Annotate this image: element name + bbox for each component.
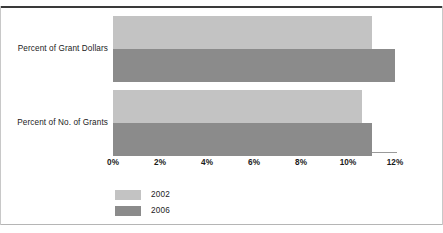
x-tick-label-2pct: 2% [154, 158, 166, 167]
legend-swatch-icon-2006 [115, 206, 141, 216]
x-tick-label-6pct: 6% [248, 158, 260, 167]
frame-border-left [0, 6, 1, 225]
category-label-0: Percent of Grant Dollars [0, 44, 108, 53]
category-label-1: Percent of No. of Grants [0, 118, 108, 127]
x-tick-label-10pct: 10% [340, 158, 356, 167]
bar-2006-group-1 [113, 123, 372, 156]
chart-legend: 2002 2006 [115, 188, 170, 220]
legend-item-2002[interactable]: 2002 [115, 188, 170, 201]
legend-swatch-icon-2002 [115, 190, 141, 200]
x-tick-label-12pct: 12% [387, 158, 403, 167]
x-tick-label-8pct: 8% [295, 158, 307, 167]
plot-area [113, 16, 395, 153]
legend-label-2002: 2002 [151, 190, 170, 199]
bar-2002-group-1 [113, 90, 362, 123]
x-tick-label-0pct: 0% [107, 158, 119, 167]
legend-label-2006: 2006 [151, 206, 170, 215]
x-tick-label-4pct: 4% [201, 158, 213, 167]
legend-item-2006[interactable]: 2006 [115, 204, 170, 217]
bar-2006-group-0 [113, 49, 395, 82]
chart-container: Percent of Grant DollarsPercent of No. o… [0, 0, 443, 233]
bar-2002-group-0 [113, 16, 372, 49]
frame-border-bottom [0, 224, 443, 225]
frame-border-top [0, 6, 443, 8]
